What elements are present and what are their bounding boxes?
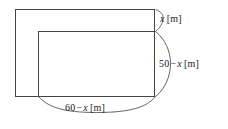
width-dimension-unit: [m] — [88, 102, 105, 113]
x-dimension-unit: [m] — [165, 13, 182, 24]
geometry-figure: x [m] 50−x [m] 60−x [m] — [0, 0, 228, 129]
height-dimension-label: 50−x [m] — [159, 59, 199, 69]
height-dimension-value-left: 50 — [159, 58, 169, 69]
width-dimension-value-left: 60 — [65, 102, 75, 113]
x-dimension-label: x [m] — [160, 14, 182, 24]
inner-rectangle — [39, 32, 155, 97]
outer-rectangle — [16, 10, 155, 97]
height-dimension-unit: [m] — [182, 58, 199, 69]
width-dimension-label: 60−x [m] — [65, 103, 105, 113]
